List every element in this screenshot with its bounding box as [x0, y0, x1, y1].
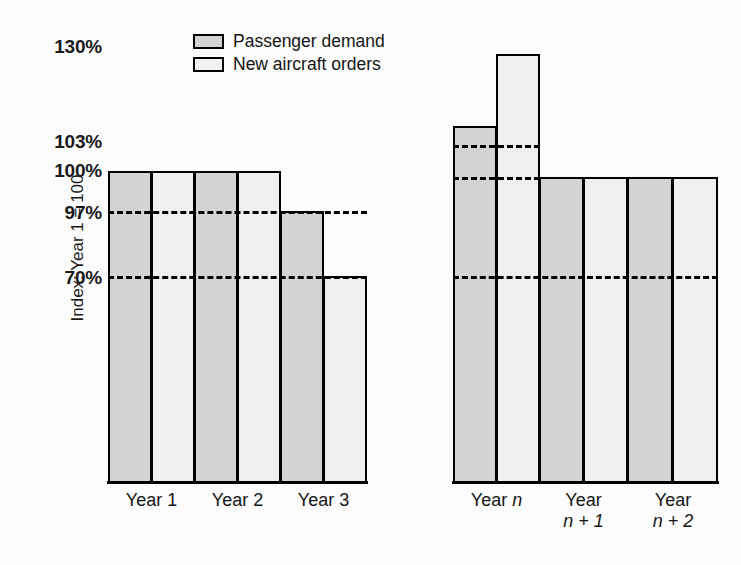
bar-yearn2-new-aircraft-orders[interactable]: [672, 177, 718, 483]
reference-line-70-right: [453, 276, 718, 279]
legend-label-new-aircraft-orders: New aircraft orders: [233, 56, 381, 74]
x-tick-yearn-word: Year: [471, 490, 507, 510]
reference-line-70-left: [108, 276, 367, 279]
x-tick-yearn: Year n: [453, 490, 540, 511]
bar-yearn-new-aircraft-orders[interactable]: [496, 54, 540, 483]
chart-canvas: 130% 103% 100% 97% 70% Index: Year 1 = 1…: [0, 0, 741, 565]
bar-year2-new-aircraft-orders[interactable]: [237, 171, 281, 483]
x-tick-yearn-symbol: n: [512, 490, 522, 510]
legend-swatch-icon-new-aircraft-orders: [193, 57, 224, 72]
legend-label-passenger-demand: Passenger demand: [233, 33, 385, 51]
x-tick-yearn1-line1: Year: [539, 490, 628, 511]
plot-area: [0, 0, 741, 565]
bar-year1-passenger-demand[interactable]: [108, 171, 152, 483]
x-axis-baseline-right: [452, 481, 719, 484]
x-tick-yearn1: Year n + 1: [539, 490, 628, 531]
reference-line-103-right: [453, 145, 540, 148]
x-tick-yearn2-line1: Year: [628, 490, 718, 511]
x-tick-yearn2-line2: n + 2: [628, 511, 718, 532]
x-axis-baseline-left: [107, 481, 368, 484]
legend-item-passenger-demand[interactable]: Passenger demand: [193, 33, 385, 51]
bar-yearn1-passenger-demand[interactable]: [539, 177, 584, 483]
x-tick-yearn2: Year n + 2: [628, 490, 718, 531]
x-tick-yearn1-line2: n + 1: [539, 511, 628, 532]
bar-year3-passenger-demand[interactable]: [280, 211, 324, 483]
bar-year1-new-aircraft-orders[interactable]: [151, 171, 195, 483]
bar-year2-passenger-demand[interactable]: [194, 171, 238, 483]
x-tick-year2: Year 2: [194, 490, 281, 511]
reference-line-97-left: [108, 211, 367, 214]
bar-year3-new-aircraft-orders[interactable]: [323, 276, 367, 483]
x-tick-year1: Year 1: [108, 490, 195, 511]
x-tick-year3: Year 3: [280, 490, 367, 511]
legend-item-new-aircraft-orders[interactable]: New aircraft orders: [193, 56, 385, 74]
bar-yearn2-passenger-demand[interactable]: [627, 177, 673, 483]
bar-yearn1-new-aircraft-orders[interactable]: [583, 177, 628, 483]
legend-swatch-icon-passenger-demand: [193, 34, 224, 49]
chart-legend: Passenger demand New aircraft orders: [193, 33, 385, 78]
reference-line-100-right: [453, 177, 540, 180]
